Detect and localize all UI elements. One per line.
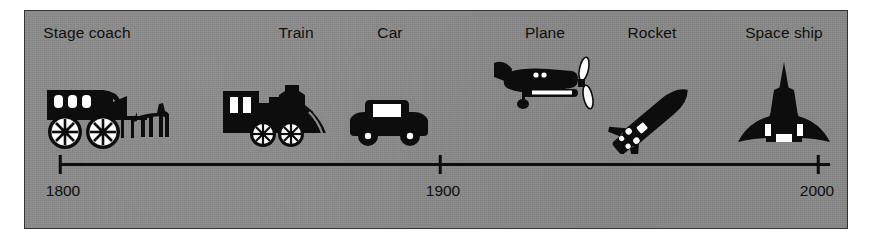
item-label-plane: Plane (525, 24, 565, 42)
item-label-train: Train (278, 24, 313, 42)
item-label-car: Car (377, 24, 402, 42)
spaceship-icon (736, 60, 832, 156)
rocket-icon (606, 82, 702, 154)
item-label-stage-coach: Stage coach (43, 24, 130, 42)
axis-year-1900: 1900 (426, 182, 460, 200)
axis-tick-2000 (817, 155, 820, 174)
transport-timeline-figure: Stage coach Train Car Plane Rocket Space… (0, 0, 872, 239)
item-label-rocket: Rocket (628, 24, 677, 42)
car-icon (344, 98, 436, 152)
axis-tick-1900 (439, 155, 442, 174)
stagecoach-icon (41, 82, 169, 154)
axis-year-2000: 2000 (800, 182, 834, 200)
axis-tick-1800 (59, 155, 62, 174)
train-icon (221, 85, 339, 153)
item-label-space-ship: Space ship (745, 24, 823, 42)
axis-year-1800: 1800 (46, 182, 80, 200)
plane-icon (492, 53, 598, 125)
timeline-axis-line (60, 163, 830, 166)
